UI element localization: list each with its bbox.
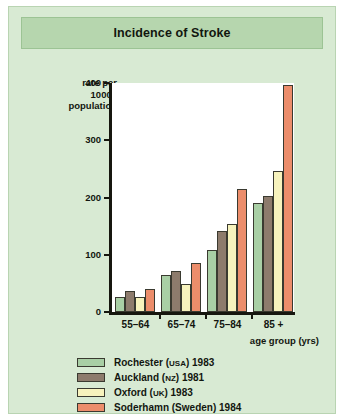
legend-label: Soderhamn (Sweden) 1984	[114, 402, 241, 413]
bar	[273, 171, 283, 311]
y-axis-title-line-2: 10000	[37, 89, 117, 101]
chart-card: Incidence of Stroke rate per 10000 popul…	[8, 6, 336, 414]
x-axis-title: age group (yrs)	[250, 335, 319, 346]
bar	[161, 275, 171, 311]
bar-group	[207, 83, 247, 312]
bar-groups	[109, 83, 295, 314]
y-axis-title-line-3: population	[37, 100, 117, 112]
y-tick-label: 400	[67, 77, 101, 88]
bar	[263, 196, 273, 312]
bar	[181, 284, 191, 311]
page-title: Incidence of Stroke	[113, 26, 230, 40]
bar	[171, 271, 181, 311]
bar	[217, 231, 227, 312]
legend-item: Auckland (NZ) 1981	[77, 370, 323, 384]
legend-swatch	[77, 373, 105, 382]
legend-swatch	[77, 358, 105, 367]
legend-label: Auckland (NZ) 1981	[114, 372, 204, 383]
bar	[207, 250, 217, 311]
legend-item: Rochester (USA) 1983	[77, 355, 323, 369]
chart-page: Incidence of Stroke rate per 10000 popul…	[0, 0, 344, 420]
y-tick-label: 0	[67, 306, 101, 317]
legend-swatch	[77, 403, 105, 412]
bar	[237, 189, 247, 312]
bar	[227, 224, 237, 311]
bar	[135, 297, 145, 311]
x-tick-label: 85 +	[246, 319, 302, 330]
bar-group	[253, 83, 293, 312]
legend-swatch	[77, 388, 105, 397]
bar	[125, 291, 135, 311]
bar-group	[115, 83, 155, 312]
bar	[115, 297, 125, 311]
y-tick-label: 200	[67, 192, 101, 203]
legend-label: Oxford (UK) 1983	[114, 387, 193, 398]
legend-item: Soderhamn (Sweden) 1984	[77, 400, 323, 414]
chart-title-bar: Incidence of Stroke	[21, 17, 323, 49]
plot-area: rate per 10000 population 0100200300400 …	[21, 59, 323, 349]
bar	[253, 203, 263, 312]
bar	[191, 263, 201, 311]
y-tick-label: 300	[67, 134, 101, 145]
legend-label: Rochester (USA) 1983	[114, 357, 214, 368]
legend-item: Oxford (UK) 1983	[77, 385, 323, 399]
bar	[145, 289, 155, 312]
bar-group	[161, 83, 201, 312]
bar	[283, 85, 293, 312]
chart-legend: Rochester (USA) 1983Auckland (NZ) 1981Ox…	[77, 355, 323, 415]
y-tick-label: 100	[67, 249, 101, 260]
